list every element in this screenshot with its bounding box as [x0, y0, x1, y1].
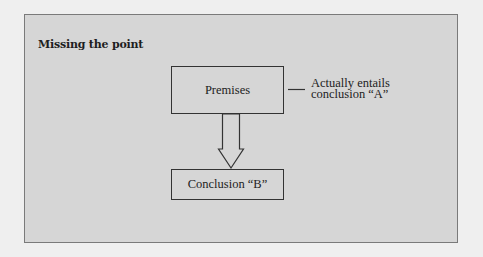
conclusion-box: Conclusion “B” [171, 169, 284, 200]
premises-box: Premises [171, 66, 284, 114]
diagram-title: Missing the point [38, 38, 143, 51]
premises-annotation: Actually entails conclusion “A” [311, 78, 390, 100]
premises-label: Premises [205, 83, 250, 98]
conclusion-label: Conclusion “B” [188, 177, 268, 192]
annotation-line-2: conclusion “A” [311, 89, 390, 100]
